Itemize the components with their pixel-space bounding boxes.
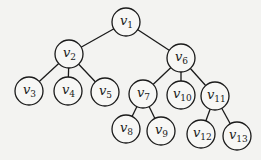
node-v1: v1 bbox=[112, 8, 140, 36]
node-v6: v6 bbox=[167, 44, 195, 72]
node-v5: v5 bbox=[91, 78, 119, 106]
node-v7: v7 bbox=[129, 80, 157, 108]
node-v10: v10 bbox=[167, 81, 195, 109]
node-v13: v13 bbox=[223, 122, 251, 150]
node-v9: v9 bbox=[147, 117, 175, 145]
node-v11: v11 bbox=[201, 82, 229, 110]
nodes-layer: v1v2v6v3v4v5v7v10v11v8v9v12v13 bbox=[15, 8, 251, 150]
node-v2: v2 bbox=[55, 40, 83, 68]
tree-diagram: v1v2v6v3v4v5v7v10v11v8v9v12v13 bbox=[0, 0, 261, 160]
node-v12: v12 bbox=[187, 120, 215, 148]
node-v8: v8 bbox=[112, 115, 140, 143]
node-v4: v4 bbox=[54, 77, 82, 105]
node-v3: v3 bbox=[15, 77, 43, 105]
tree-canvas: v1v2v6v3v4v5v7v10v11v8v9v12v13 bbox=[0, 0, 261, 160]
